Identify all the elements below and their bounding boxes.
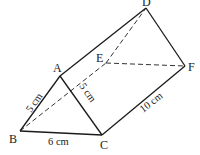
vertex-label-B: B — [9, 132, 17, 146]
edge-EF-hidden — [106, 63, 185, 66]
prism-svg: A B C D E F 5 cm 5 cm 6 cm 10 cm — [0, 0, 200, 155]
measure-BC: 6 cm — [48, 136, 69, 147]
vertex-label-C: C — [100, 138, 108, 152]
edge-DF — [146, 8, 185, 66]
vertex-label-A: A — [53, 61, 62, 75]
prism-diagram: A B C D E F 5 cm 5 cm 6 cm 10 cm — [0, 0, 200, 155]
vertex-label-E: E — [96, 51, 103, 65]
vertex-label-F: F — [188, 60, 195, 74]
measure-AC: 5 cm — [77, 81, 98, 104]
vertex-label-D: D — [142, 0, 151, 9]
edge-BC — [20, 131, 102, 135]
